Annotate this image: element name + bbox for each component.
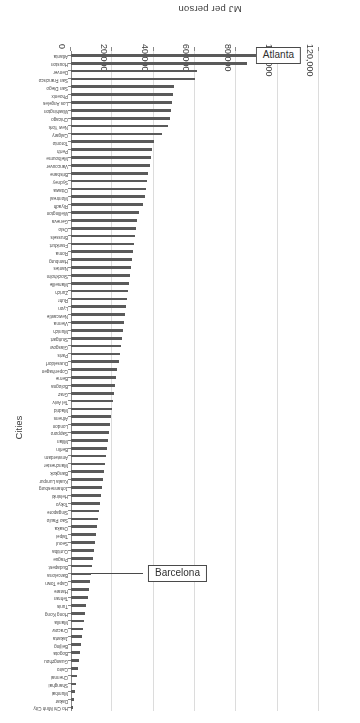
value-axis-title: MJ per person [60,4,360,15]
category-tick [68,565,71,566]
bar [71,565,92,568]
bar [71,282,129,285]
category-label: Cairo [57,667,68,672]
category-label: Sapporo [51,431,68,436]
category-tick [68,636,71,637]
bar [71,313,125,316]
gridline [277,51,278,711]
category-tick [68,400,71,401]
axis-tick [194,47,195,51]
bar [71,533,96,536]
category-label: Curitiba [52,549,68,554]
category-label: Tel Aviv [53,399,69,404]
category-tick [68,707,71,708]
bar [71,361,119,364]
category-label: Shanghai [49,682,68,687]
category-label: Houston [51,62,68,67]
category-tick [68,393,71,394]
bar [71,518,98,521]
bar [71,573,91,576]
bar [71,101,172,104]
bar [71,620,84,623]
category-label: Roma [56,250,68,255]
category-label: Johannesburg [39,486,68,491]
bar [71,581,90,584]
category-tick [68,125,71,126]
category-tick [68,628,71,629]
category-tick [68,275,71,276]
bar [71,675,77,678]
category-label: Wellington [47,211,68,216]
category-tick [68,597,71,598]
category-tick [68,298,71,299]
category-label: Munich [53,329,68,334]
category-tick [68,534,71,535]
bar [71,604,87,607]
category-tick [68,589,71,590]
category-tick [68,110,71,111]
category-label: Atlanta [54,54,68,59]
category-label: Phoenix [51,93,68,98]
bar [71,156,151,159]
category-tick [68,267,71,268]
bar [71,243,134,246]
bar [71,196,145,199]
category-label: Montreal [50,195,68,200]
bar [71,274,130,277]
bar [71,235,135,238]
category-tick [68,118,71,119]
category-label: Los Angeles [43,101,68,106]
axis-tick [111,47,112,51]
bar [71,78,195,81]
category-label: Glasgow [50,344,68,349]
category-tick [68,70,71,71]
category-tick [68,471,71,472]
bar [71,54,284,57]
bar [71,502,100,505]
bar [71,148,152,151]
category-label: Manila [54,619,68,624]
bar [71,298,127,301]
category-tick [68,526,71,527]
bar [71,392,114,395]
category-label: Beijing [54,643,68,648]
category-tick [68,424,71,425]
bar [71,541,95,544]
category-label: Oslo [59,227,68,232]
category-label: Vienna [54,321,68,326]
category-tick [68,620,71,621]
bar [71,698,74,701]
bar [71,408,112,411]
category-label: Frankfurt [50,242,68,247]
category-label: Prague [53,557,68,562]
category-label: Berne [56,376,68,381]
category-tick [68,361,71,362]
category-label: Lyon [58,305,68,310]
axis-tick [153,47,154,51]
category-tick [68,408,71,409]
category-tick [68,94,71,95]
bar [71,431,109,434]
category-tick [68,290,71,291]
category-tick [68,283,71,284]
category-label: Osaka [55,525,68,530]
bar [71,486,102,489]
category-tick [68,165,71,166]
category-tick [68,455,71,456]
bar [71,691,75,694]
category-tick [68,644,71,645]
category-tick [68,173,71,174]
bar [71,251,133,254]
bar [71,549,94,552]
bar [71,290,128,293]
category-tick [68,141,71,142]
bar [71,706,73,709]
bar [71,612,85,615]
category-tick [68,432,71,433]
bar [71,368,118,371]
category-tick [68,157,71,158]
bar [71,337,122,340]
bar [71,455,106,458]
category-label: Zurich [55,289,68,294]
bar [71,471,104,474]
